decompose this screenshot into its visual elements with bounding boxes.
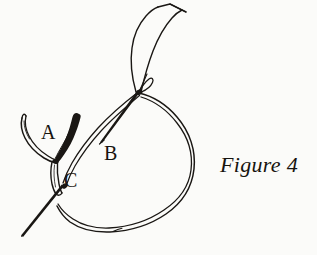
needle-shaft-edge (101, 92, 140, 144)
ribbon-stem-left (51, 162, 56, 194)
label-b: B (104, 143, 117, 163)
label-c: C (64, 170, 77, 190)
label-a: A (41, 122, 55, 142)
ribbon-tip-fold (170, 4, 186, 12)
figure-caption: Figure 4 (220, 154, 298, 176)
ribbon-tail-right-edge (141, 10, 182, 92)
figure-illustration: A B C Figure 4 (0, 0, 317, 255)
ribbon-stem-shading (54, 165, 56, 187)
lower-left-tail-edge (22, 186, 64, 237)
